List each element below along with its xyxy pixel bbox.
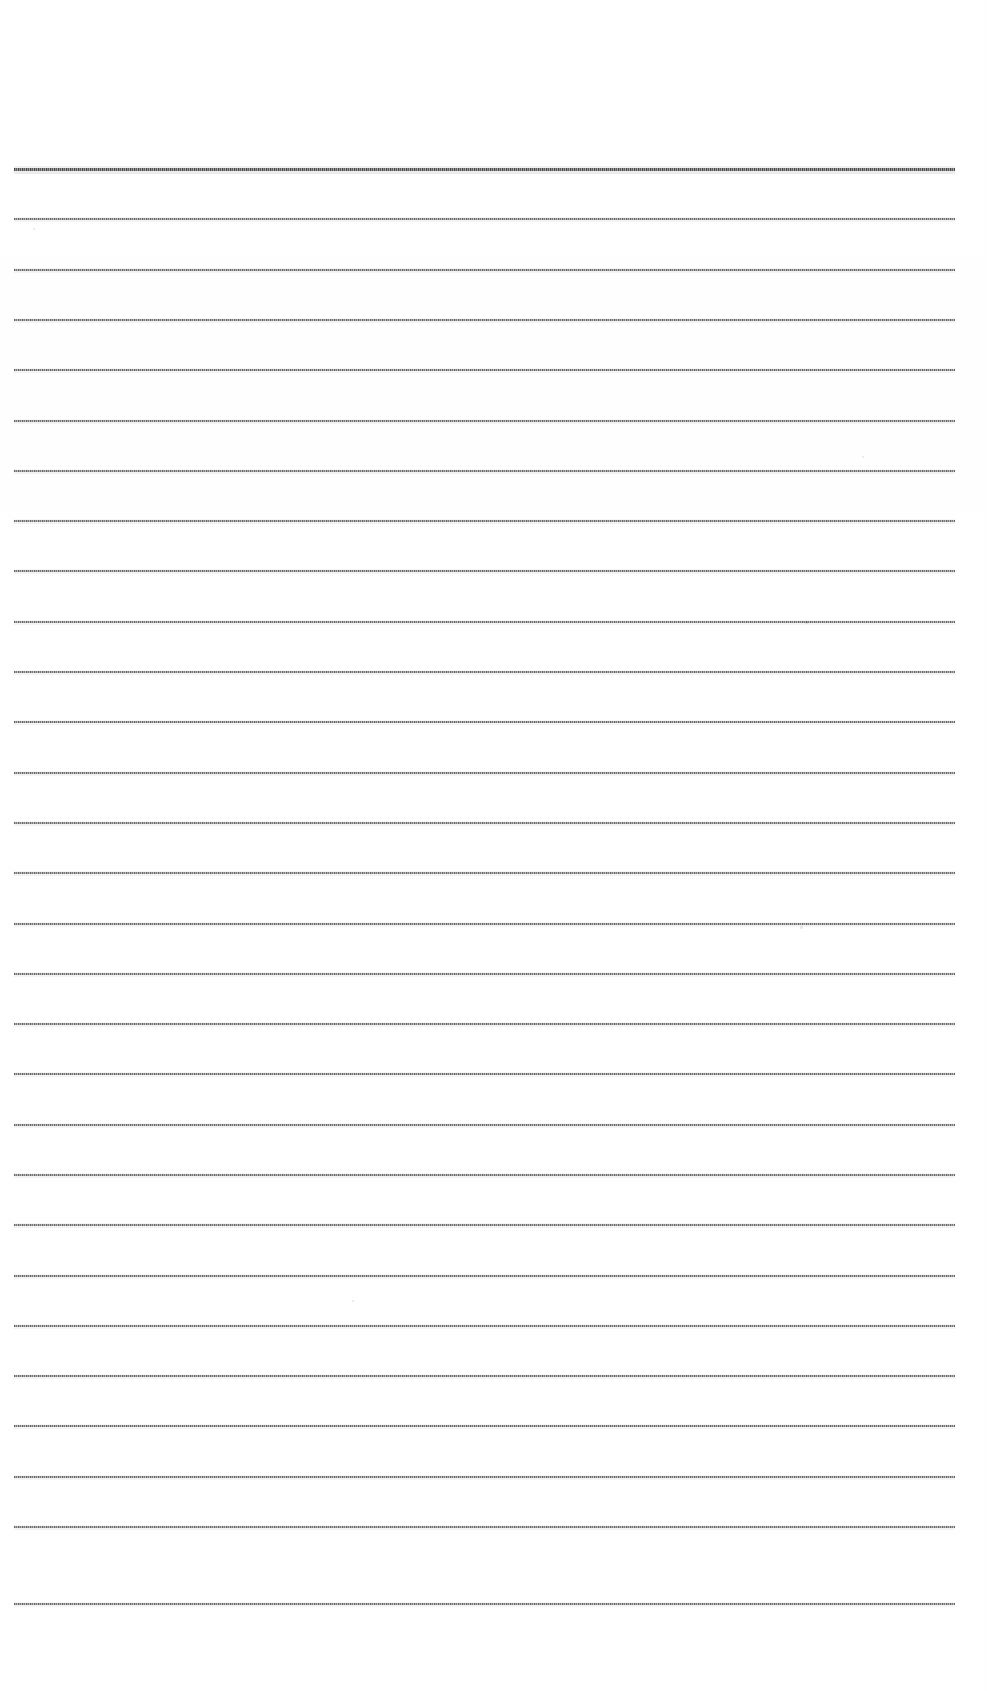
page-title: Blank ruled writing paper (scan) (0, 21, 1, 22)
rule-halo-bottom (14, 1377, 955, 1379)
ruled-line (14, 1174, 955, 1176)
ruled-line (14, 872, 955, 874)
ruled-line (14, 1073, 955, 1075)
rule-halo-bottom (14, 1277, 955, 1279)
rule-halo-bottom (14, 422, 955, 424)
rule-halo-bottom (14, 623, 955, 625)
rule-halo-bottom (14, 874, 955, 876)
rule-halo-bottom (14, 1528, 955, 1530)
ruled-line (14, 520, 955, 522)
rule-halo-bottom (14, 1427, 955, 1429)
ruled-line (14, 319, 955, 321)
scan-speck (33, 228, 35, 230)
ruled-line (14, 721, 955, 723)
scan-speck (352, 1300, 354, 1302)
ruled-line (14, 1275, 955, 1277)
rule-halo-bottom (14, 925, 955, 927)
ruled-line (14, 1375, 955, 1377)
rule-halo-bottom (14, 220, 955, 222)
ruled-line (14, 1526, 955, 1528)
rule-halo-bottom (14, 1025, 955, 1027)
rule-halo-bottom (14, 472, 955, 474)
rule-halo-bottom (14, 1176, 955, 1178)
ruled-line (14, 772, 955, 774)
ruled-line (14, 1325, 955, 1327)
ruled-line (14, 1224, 955, 1226)
ruled-line (14, 269, 955, 271)
rule-halo-bottom (14, 321, 955, 323)
rule-halo-bottom (14, 1226, 955, 1228)
ruled-line (14, 1603, 955, 1605)
rule-halo-bottom (14, 673, 955, 675)
rule-halo-bottom (14, 1327, 955, 1329)
ruled-line (14, 420, 955, 422)
rule-halo-bottom (14, 1605, 955, 1607)
ruled-line (14, 369, 955, 371)
ruled-line (14, 1476, 955, 1478)
ruled-line (14, 621, 955, 623)
ruled-line (14, 822, 955, 824)
ruled-line (14, 470, 955, 472)
ruled-line (14, 218, 955, 220)
scanned-page: Blank ruled writing paper (scan) (0, 0, 987, 1691)
ruled-line (14, 1124, 955, 1126)
rule-halo-bottom (14, 1478, 955, 1480)
rule-halo-bottom (14, 975, 955, 977)
ruled-line (14, 1023, 955, 1025)
rule-halo-bottom (14, 572, 955, 574)
ruled-line (14, 1425, 955, 1427)
ruled-line (14, 168, 955, 171)
ruled-line (14, 570, 955, 572)
ruled-line (14, 973, 955, 975)
ruled-line (14, 923, 955, 925)
scan-grain-overlay (0, 0, 987, 1691)
rule-halo-bottom (14, 1126, 955, 1128)
rule-halo-bottom (14, 1075, 955, 1077)
scan-speck (862, 456, 864, 458)
rule-halo-bottom (14, 774, 955, 776)
rule-halo-bottom (14, 371, 955, 373)
rule-halo-bottom (14, 171, 955, 174)
rule-halo-bottom (14, 522, 955, 524)
rule-halo-bottom (14, 824, 955, 826)
ruled-line (14, 671, 955, 673)
rule-halo-bottom (14, 723, 955, 725)
rule-halo-bottom (14, 271, 955, 273)
